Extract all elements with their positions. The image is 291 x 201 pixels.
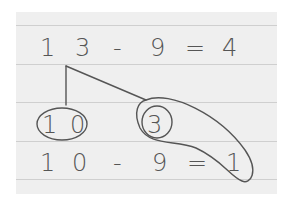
circle-ten	[37, 108, 87, 140]
ink-strokes	[0, 0, 291, 201]
branch-line-right	[66, 66, 146, 100]
circle-three-inner	[142, 106, 172, 138]
loop-three-to-one	[137, 98, 253, 182]
